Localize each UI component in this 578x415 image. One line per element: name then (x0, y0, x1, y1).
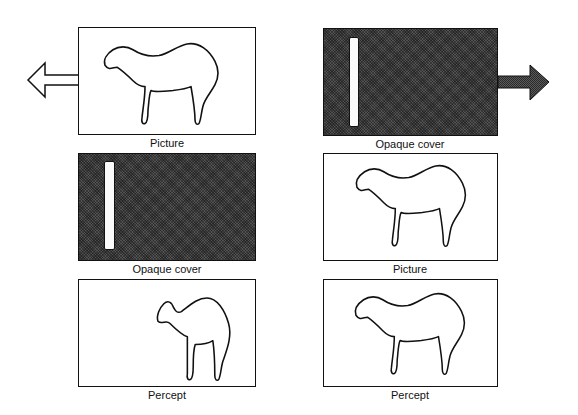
camel-percept-partial (157, 298, 229, 380)
camel-picture-right (356, 166, 465, 247)
arrow-right-icon (498, 65, 549, 100)
arrow-left-icon (28, 63, 78, 97)
camel-picture-left (104, 44, 218, 125)
figure-graphics (0, 0, 578, 415)
camel-percept-full (355, 294, 464, 375)
